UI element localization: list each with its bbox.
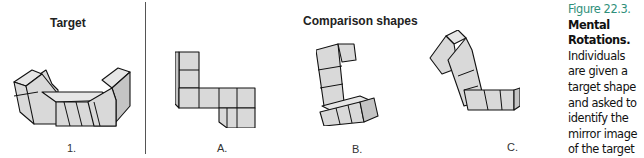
- target-shape: [6, 62, 136, 132]
- figure-title: Mental Rotations.: [568, 18, 630, 48]
- target-heading: Target: [50, 16, 86, 30]
- target-label: 1.: [67, 142, 76, 154]
- option-c-label: C.: [507, 141, 518, 153]
- figure-caption: Figure 22.3. Mental Rotations. Individua…: [568, 2, 644, 158]
- comparison-heading: Comparison shapes: [303, 14, 418, 28]
- comparison-shape-b: [316, 42, 386, 126]
- option-b-label: B.: [352, 143, 362, 155]
- caption-body: Individuals are given a target shape and…: [568, 49, 638, 158]
- panel-divider: [145, 2, 146, 154]
- comparison-shape-a: [175, 48, 265, 128]
- figure-number: Figure 22.3.: [568, 2, 631, 16]
- option-a-label: A.: [217, 142, 227, 154]
- comparison-shape-c: [428, 30, 520, 114]
